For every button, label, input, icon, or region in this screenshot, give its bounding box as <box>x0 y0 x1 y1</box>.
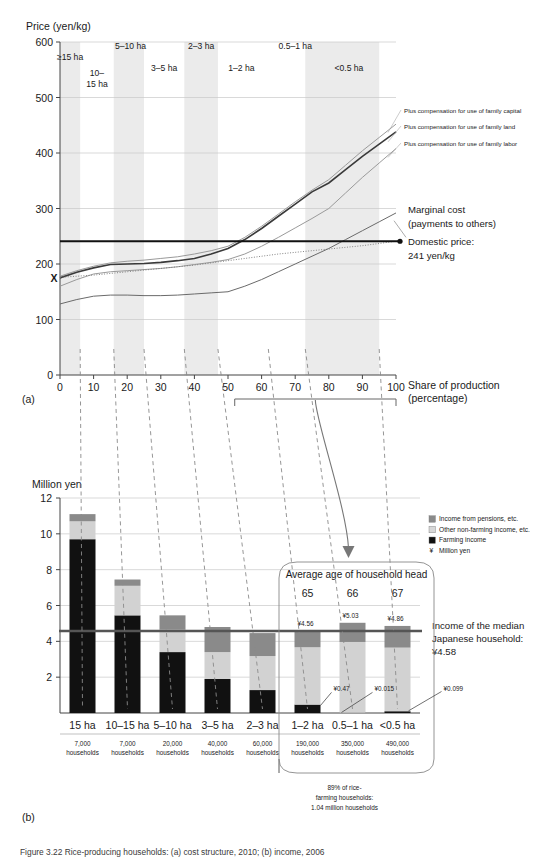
panel-a-marginal-cost-leader <box>394 221 406 238</box>
panel-a-x-tick-label-50: 50 <box>222 381 234 393</box>
panel-b-total-label-6: ¥5.03 <box>343 612 359 619</box>
panel-b-callout-arrow-shaft <box>315 400 348 548</box>
panel-b-households-label-4-line2: households <box>246 749 279 756</box>
panel-b-callout-age-2: 67 <box>392 587 404 599</box>
panel-a-band-label-0: ≥15 ha <box>57 52 83 62</box>
panel-b-category-label-4: 2–3 ha <box>246 719 278 731</box>
panel-a-band-label-1: 10– <box>90 68 105 78</box>
panel-a-band-label-5: 2–3 ha <box>188 41 215 51</box>
figure-caption: Figure 3.22 Rice-producing households: (… <box>20 847 325 857</box>
panel-b-households-label-5-line2: households <box>291 749 324 756</box>
panel-b-legend-label-2: Farming income <box>439 536 487 544</box>
panel-b-legend-swatch-1 <box>429 526 435 532</box>
panel-a-marginal-cost-label-line1: Marginal cost <box>408 204 465 215</box>
panel-b-callout-age-1: 66 <box>347 587 359 599</box>
panel-b-median-label-line1: Income of the median <box>432 620 524 631</box>
panel-a-x-tick-label-0: 0 <box>57 381 63 393</box>
panel-b-legend-swatch-0 <box>429 516 435 522</box>
panel-a-y-tick-label-100: 100 <box>35 314 53 326</box>
panel-b-households-label-7-line1: 490,000 <box>386 740 410 747</box>
panel-b-bar-1-segment-1 <box>115 586 141 616</box>
panel-b-bar-7-segment-0 <box>385 711 411 713</box>
panel-a-x-tick-label-90: 90 <box>357 381 369 393</box>
panel-b-households-label-3-line1: 40,000 <box>208 740 228 747</box>
panel-a-line-label-1: Plus compensation for use of family land <box>404 123 516 130</box>
panel-b-bar-4-segment-2 <box>250 633 276 656</box>
panel-b-median-label-line3: ¥4.58 <box>431 646 456 657</box>
panel-a-line-label-2: Plus compensation for use of family labo… <box>404 140 517 147</box>
panel-a-domestic-price-label-line2: 241 yen/kg <box>408 250 455 261</box>
panel-a-domestic-price-label-line1: Domestic price: <box>408 236 474 247</box>
panel-b-category-label-1: 10–15 ha <box>106 719 150 731</box>
panel-a-label: (a) <box>22 393 35 405</box>
panel-a-y-tick-label-0: 0 <box>47 369 53 381</box>
panel-a-x-tick-label-10: 10 <box>88 381 100 393</box>
panel-a-band-label-3: 5–10 ha <box>115 41 146 51</box>
panel-b-y-axis-title: Million yen <box>32 478 82 490</box>
panel-b-households-label-6-line2: households <box>336 749 369 756</box>
panel-b-category-label-6: 0.5–1 ha <box>332 719 373 731</box>
panel-b-bar-2-segment-2 <box>160 615 186 629</box>
panel-b-total-label-7: ¥4.86 <box>388 615 404 622</box>
panel-b-farming-label-6: ¥0.015 <box>375 685 395 692</box>
panel-b-legend-label-0: Income from pensions, etc. <box>439 515 518 523</box>
panel-b-legend-label-1: Other non-farming income, etc. <box>439 526 530 534</box>
panel-b-callout-age-0: 65 <box>302 587 314 599</box>
panel-a-x-axis-title-line2: (percentage) <box>408 392 468 404</box>
panel-b-bar-7-segment-2 <box>385 626 411 648</box>
panel-b-y-tick-label-4: 4 <box>46 635 52 647</box>
panel-b-bar-0-segment-2 <box>70 514 96 521</box>
panel-b-callout-title: Average age of household head <box>286 569 428 580</box>
panel-b-bar-3-segment-1 <box>205 652 231 679</box>
panel-b-bar-4-segment-1 <box>250 656 276 690</box>
panel-a-line-label-leader-2 <box>388 143 401 157</box>
panel-a-y-tick-label-200: 200 <box>35 258 53 270</box>
figure-rice-producing-households: 0100200300400500600010203040506070809010… <box>0 0 558 857</box>
panel-b-bar-5-segment-1 <box>295 647 321 704</box>
panel-b-bar-2-segment-1 <box>160 630 186 652</box>
panel-a-line-label-0: Plus compensation for use of family capi… <box>404 107 521 114</box>
panel-a-domestic-price-marker <box>397 239 402 244</box>
panel-b-bar-5-segment-2 <box>295 631 321 647</box>
panel-b-households-label-2-line2: households <box>156 749 189 756</box>
panel-a-band-label-6: 1–2 ha <box>228 63 255 73</box>
panel-b-bar-4-segment-0 <box>250 690 276 713</box>
panel-b-households-label-6-line1: 350,000 <box>341 740 365 747</box>
panel-a-band-label-8: <0.5 ha <box>334 63 363 73</box>
panel-b-bar-0-segment-1 <box>70 521 96 539</box>
panel-b-y-tick-label-8: 8 <box>46 564 52 576</box>
panel-b-y-tick-label-2: 2 <box>46 671 52 683</box>
panel-a-band-label-4: 3–5 ha <box>151 63 178 73</box>
panel-b-bar-1-segment-2 <box>115 580 141 586</box>
figure-svg: 0100200300400500600010203040506070809010… <box>0 0 558 857</box>
panel-a-line-label-leader-0 <box>388 110 401 132</box>
panel-b-farming-leader-5 <box>321 692 332 705</box>
panel-a-y-tick-label-400: 400 <box>35 147 53 159</box>
panel-b-legend-label-3: Million yen <box>439 547 470 555</box>
panel-b-category-label-3: 3–5 ha <box>201 719 233 731</box>
panel-b-category-label-7: <0.5 ha <box>380 719 415 731</box>
panel-b-callout-footer-line1: 89% of rice- <box>327 784 361 791</box>
panel-a-y-tick-label-300: 300 <box>35 203 53 215</box>
panel-a-x-tick-label-20: 20 <box>121 381 133 393</box>
panel-b-farming-label-5: ¥0.47 <box>334 685 350 692</box>
panel-a-x-tick-label-80: 80 <box>323 381 335 393</box>
panel-b-bar-6-segment-1 <box>340 642 366 713</box>
panel-b-median-label-line2: Japanese household: <box>432 633 523 644</box>
panel-b-total-label-5: ¥4.56 <box>298 620 314 627</box>
panel-a-x-axis-title-line1: Share of production <box>408 379 500 391</box>
panel-b-category-label-5: 1–2 ha <box>291 719 323 731</box>
panel-b-category-label-2: 5–10 ha <box>154 719 192 731</box>
panel-b-callout-arrow-head <box>343 546 355 558</box>
panel-a-y-axis-title: Price (yen/kg) <box>26 20 91 32</box>
panel-b-farming-leader-7 <box>409 692 442 711</box>
panel-a-band-label-2: 15 ha <box>86 79 108 89</box>
panel-b-households-label-7-line2: households <box>381 749 414 756</box>
panel-b-households-label-5-line1: 190,000 <box>296 740 320 747</box>
panel-b-households-label-1-line2: households <box>111 749 144 756</box>
panel-b-farming-label-7: ¥0.099 <box>444 685 464 692</box>
panel-a-band-label-7: 0.5–1 ha <box>278 41 312 51</box>
panel-a-x-marker: X <box>50 272 57 284</box>
panel-a-x-tick-label-60: 60 <box>256 381 268 393</box>
panel-b-households-label-0-line2: households <box>66 749 99 756</box>
